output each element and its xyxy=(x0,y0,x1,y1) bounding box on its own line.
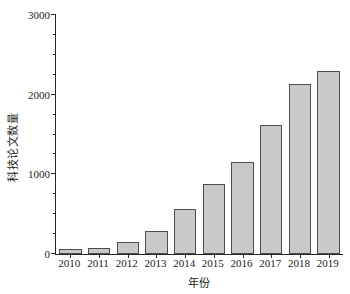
y-axis-minor-tick xyxy=(53,193,56,194)
x-axis-tick-label: 2013 xyxy=(144,258,166,269)
y-axis-minor-tick xyxy=(53,54,56,55)
y-axis-minor-tick xyxy=(53,134,56,135)
bar xyxy=(317,71,339,254)
x-axis-tick-label: 2016 xyxy=(231,258,253,269)
y-axis-major-tick xyxy=(51,253,56,254)
y-axis-tick-labels: 0100020003000 xyxy=(18,0,50,294)
bar xyxy=(117,242,139,254)
y-axis-major-tick xyxy=(51,14,56,15)
x-axis-title: 年份 xyxy=(55,274,343,290)
y-axis-major-tick xyxy=(51,94,56,95)
x-axis-tick-label: 2014 xyxy=(173,258,195,269)
y-axis-minor-tick xyxy=(53,213,56,214)
y-axis-minor-tick xyxy=(53,114,56,115)
bar xyxy=(260,125,282,254)
bar-chart-figure: 科技论文数量 0100020003000 2010201120122013201… xyxy=(0,0,350,294)
x-axis-tick-label: 2015 xyxy=(202,258,224,269)
y-axis-major-tick xyxy=(51,173,56,174)
bar xyxy=(231,162,253,254)
bar xyxy=(203,184,225,254)
y-axis-title: 科技论文数量 xyxy=(3,0,19,294)
plot-area xyxy=(55,15,343,255)
y-axis-minor-tick xyxy=(53,34,56,35)
y-axis-tick-label: 2000 xyxy=(28,89,50,100)
bar xyxy=(289,84,311,254)
x-axis-tick-labels: 2010201120122013201420152016201720182019 xyxy=(55,258,343,274)
x-axis-tick-label: 2019 xyxy=(317,258,339,269)
x-axis-tick-label: 2017 xyxy=(259,258,281,269)
bar xyxy=(145,231,167,254)
x-axis-tick-label: 2010 xyxy=(58,258,80,269)
bar-series xyxy=(56,15,343,254)
y-axis-minor-tick xyxy=(53,153,56,154)
x-axis-tick-label: 2011 xyxy=(87,258,109,269)
y-axis-tick-label: 0 xyxy=(45,249,51,260)
y-axis-tick-label: 1000 xyxy=(28,169,50,180)
y-axis-minor-tick xyxy=(53,74,56,75)
x-axis-tick-label: 2018 xyxy=(288,258,310,269)
x-axis-tick-label: 2012 xyxy=(116,258,138,269)
bar xyxy=(174,209,196,254)
y-axis-minor-tick xyxy=(53,233,56,234)
y-axis-tick-label: 3000 xyxy=(28,10,50,21)
y-axis-title-text: 科技论文数量 xyxy=(3,113,19,182)
